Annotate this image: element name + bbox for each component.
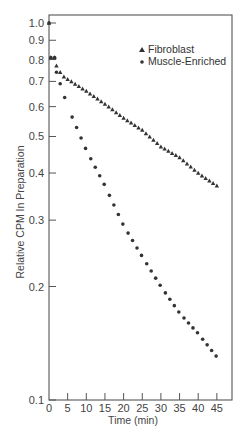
data-point xyxy=(185,161,189,165)
data-point xyxy=(58,70,62,74)
data-point xyxy=(177,310,181,314)
data-point xyxy=(140,254,144,258)
y-tick-label: 0.6 xyxy=(29,101,44,113)
data-point xyxy=(155,141,159,145)
x-tick-label: 35 xyxy=(173,402,185,414)
x-tick-label: 45 xyxy=(211,402,223,414)
data-point xyxy=(75,126,79,130)
data-point xyxy=(196,331,200,335)
data-point xyxy=(108,194,112,198)
data-point xyxy=(98,174,102,178)
y-tick-label: 0.7 xyxy=(29,75,44,87)
data-point xyxy=(210,349,214,353)
data-point xyxy=(89,157,93,161)
data-point xyxy=(140,128,144,132)
legend-label-muscle-enriched: Muscle-Enriched xyxy=(148,55,226,67)
data-point xyxy=(164,291,168,295)
x-tick-label: 25 xyxy=(136,402,148,414)
data-point xyxy=(162,147,166,151)
data-point xyxy=(126,231,130,235)
data-point xyxy=(205,343,209,347)
data-point xyxy=(92,94,96,98)
data-point xyxy=(207,178,211,182)
x-axis: 051015202530354045 xyxy=(46,393,223,414)
data-point xyxy=(133,123,137,127)
x-tick-label: 15 xyxy=(99,402,111,414)
data-point xyxy=(121,222,125,226)
data-point xyxy=(79,136,83,140)
legend: Fibroblast Muscle-Enriched xyxy=(139,43,226,67)
data-point xyxy=(121,116,125,120)
data-point xyxy=(114,110,118,114)
data-point xyxy=(95,97,99,101)
legend-label-fibroblast: Fibroblast xyxy=(148,43,194,55)
data-point xyxy=(70,115,74,119)
data-point xyxy=(215,184,219,188)
data-point xyxy=(58,82,62,86)
data-point xyxy=(93,165,97,169)
data-point xyxy=(102,183,106,187)
data-point xyxy=(55,70,59,74)
data-point xyxy=(125,118,129,122)
data-point xyxy=(187,321,191,325)
data-point xyxy=(135,246,139,250)
data-point xyxy=(145,262,149,266)
data-point xyxy=(73,82,77,86)
data-point xyxy=(203,176,207,180)
chart: 1.00.90.80.70.60.50.40.30.20.1 051015202… xyxy=(0,0,247,441)
data-point xyxy=(99,99,103,103)
data-point xyxy=(69,79,73,83)
y-tick-label: 0.3 xyxy=(29,214,44,226)
data-point xyxy=(117,213,121,217)
data-point xyxy=(174,153,178,157)
data-point xyxy=(136,125,140,129)
data-point xyxy=(106,105,110,109)
data-point xyxy=(53,56,57,60)
x-tick-label: 0 xyxy=(46,402,52,414)
y-axis-label: Relative CPM In Preparation xyxy=(14,145,26,278)
data-point xyxy=(192,168,196,172)
x-tick-label: 40 xyxy=(192,402,204,414)
x-tick-label: 20 xyxy=(117,402,129,414)
data-point xyxy=(182,316,186,320)
data-point xyxy=(159,144,163,148)
data-point xyxy=(118,113,122,117)
data-point xyxy=(214,354,218,358)
data-point xyxy=(177,155,181,159)
data-point xyxy=(168,297,172,301)
data-point xyxy=(49,56,53,60)
x-axis-label: Time (min) xyxy=(108,414,158,426)
data-point xyxy=(154,276,158,280)
y-tick-label: 0.4 xyxy=(29,167,44,179)
y-tick-label: 1.0 xyxy=(29,17,44,29)
data-point xyxy=(211,181,215,185)
data-point xyxy=(47,21,51,25)
y-tick-label: 0.9 xyxy=(29,34,44,46)
data-point xyxy=(63,96,67,100)
y-axis: 1.00.90.80.70.60.50.40.30.20.1 xyxy=(29,17,56,406)
data-point xyxy=(173,304,177,308)
y-tick-label: 0.1 xyxy=(29,394,44,406)
y-tick-label: 0.5 xyxy=(29,130,44,142)
data-point xyxy=(103,102,107,106)
series-muscle-enriched xyxy=(47,21,218,358)
data-point xyxy=(189,165,193,169)
data-point xyxy=(170,151,174,155)
data-point xyxy=(196,171,200,175)
data-point xyxy=(144,131,148,135)
data-point xyxy=(84,89,88,93)
data-point xyxy=(151,138,155,142)
triangle-marker-icon xyxy=(139,47,145,52)
plot-border xyxy=(49,15,232,400)
x-tick-label: 5 xyxy=(65,402,71,414)
data-point xyxy=(129,121,133,125)
data-point xyxy=(65,77,69,81)
circle-marker-icon xyxy=(140,60,144,64)
data-point xyxy=(110,107,114,111)
data-point xyxy=(201,337,205,341)
data-point xyxy=(158,284,162,288)
data-point xyxy=(62,75,66,79)
data-point xyxy=(191,326,195,330)
data-point xyxy=(84,147,88,151)
data-point xyxy=(131,239,135,243)
